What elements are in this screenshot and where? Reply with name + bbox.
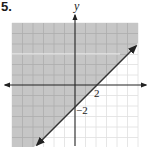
y-axis-label: y [73, 0, 80, 13]
x-tick-label: 2 [94, 87, 100, 99]
y-tick-label: −2 [76, 104, 88, 116]
inequality-graph: y 2 −2 [0, 0, 150, 147]
